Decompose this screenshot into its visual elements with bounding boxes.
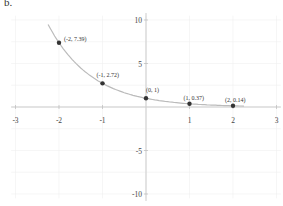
point-label: (2, 0.14): [225, 97, 246, 104]
y-tick-label: 5: [138, 60, 142, 69]
data-point: [187, 102, 191, 106]
x-tick-label: 3: [275, 116, 279, 125]
y-tick-label: 10: [135, 16, 143, 25]
exponential-plot: -3-2-1123105-5-10(-2, 7.39)(-1, 2.72)(0,…: [0, 0, 283, 206]
x-tick-label: -2: [56, 116, 62, 125]
data-point: [231, 104, 235, 108]
y-tick-label: -10: [132, 190, 142, 199]
x-tick-label: 2: [231, 116, 235, 125]
point-label: (1, 0.37): [184, 95, 205, 102]
x-tick-label: -3: [12, 116, 18, 125]
point-label: (-2, 7.39): [64, 36, 87, 43]
graph-figure: b. -3-2-1123105-5-10(-2, 7.39)(-1, 2.72)…: [0, 0, 283, 206]
x-tick-label: 1: [188, 116, 192, 125]
x-tick-label: -1: [99, 116, 105, 125]
y-tick-label: -5: [136, 147, 142, 156]
data-point: [144, 96, 148, 100]
point-label: (0, 1): [146, 87, 159, 94]
point-label: (-1, 2.72): [97, 72, 120, 79]
data-point: [100, 81, 104, 85]
data-point: [57, 41, 61, 45]
